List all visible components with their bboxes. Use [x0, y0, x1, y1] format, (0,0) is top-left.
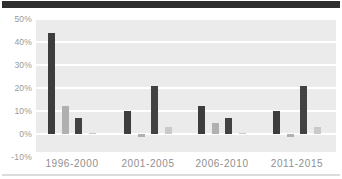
bottom-divider [2, 174, 340, 176]
bar-series-4-1996-2000 [89, 133, 96, 134]
bar-series-1-2006-2010 [198, 106, 205, 134]
bar-series-3-1996-2000 [75, 118, 82, 134]
bar-series-2-2001-2005 [138, 134, 145, 137]
y-axis-tick-label: 20% [0, 83, 32, 93]
bar-series-3-2011-2015 [300, 86, 307, 134]
bar-series-4-2011-2015 [314, 127, 321, 134]
bar-series-1-1996-2000 [48, 33, 55, 134]
y-axis-tick-label: 50% [0, 14, 32, 24]
bar-series-2-2011-2015 [287, 134, 294, 137]
chart-screenshot: 50%40%30%20%10%0%-10% 1996-20002001-2005… [0, 0, 342, 179]
gridline [36, 41, 336, 43]
top-accent-bar [2, 1, 340, 8]
x-axis-category-label: 2011-2015 [252, 158, 342, 169]
plot-area [36, 18, 336, 152]
bar-series-4-2001-2005 [165, 127, 172, 134]
bar-series-2-1996-2000 [62, 106, 69, 134]
bar-series-1-2011-2015 [273, 111, 280, 134]
y-axis-tick-label: 40% [0, 37, 32, 47]
bar-series-3-2001-2005 [151, 86, 158, 134]
gridline [36, 18, 336, 20]
gridline [36, 87, 336, 89]
gridline [36, 110, 336, 112]
bar-series-2-2006-2010 [212, 123, 219, 135]
bar-series-3-2006-2010 [225, 118, 232, 134]
bar-series-4-2006-2010 [239, 133, 246, 134]
y-axis-tick-label: 10% [0, 106, 32, 116]
bar-series-1-2001-2005 [124, 111, 131, 134]
gridline [36, 64, 336, 66]
y-axis-tick-label: 0% [0, 129, 32, 139]
y-axis-tick-label: 30% [0, 60, 32, 70]
